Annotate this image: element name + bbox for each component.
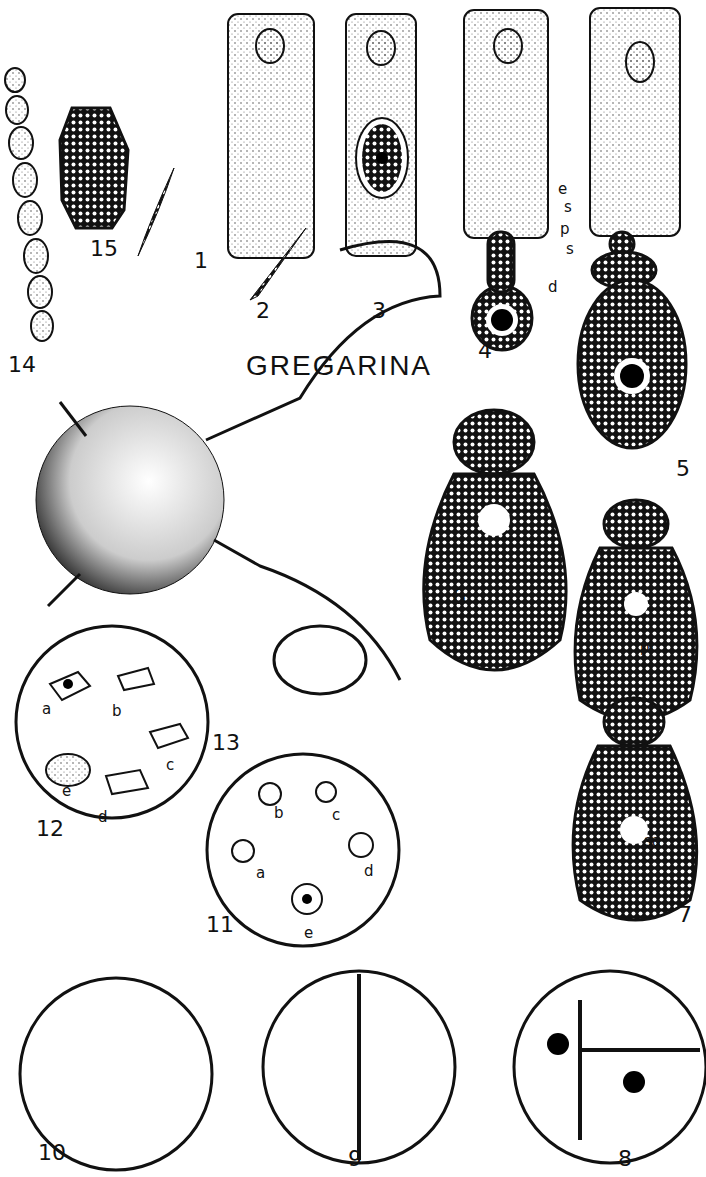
part-label: sa: [644, 832, 661, 850]
part-label: s: [564, 198, 572, 216]
fig11-label: b: [274, 804, 284, 822]
fig12-label: a: [42, 700, 51, 718]
figure-number: 1: [194, 248, 208, 273]
gregarina-plate: [0, 0, 706, 1177]
part-label: e: [558, 180, 567, 198]
figure-number: 8: [618, 1146, 632, 1171]
fig11-label: d: [364, 862, 374, 880]
fig-14-chain: [5, 68, 53, 341]
figure-number: 2: [256, 298, 270, 323]
figure-number: 12: [36, 816, 64, 841]
fig-13-cyst: [36, 406, 224, 594]
figure-number: 7: [678, 902, 692, 927]
fig11-label: e: [304, 924, 313, 942]
part-label: s: [566, 240, 574, 258]
fig12-label: e: [62, 782, 71, 800]
part-label: d: [548, 278, 558, 296]
figure-number: 4: [478, 338, 492, 363]
fig11-label: c: [332, 806, 340, 824]
fig12-label: c: [166, 756, 174, 774]
fig-1-sporozoite: [138, 168, 174, 256]
figure-number: 10: [38, 1140, 66, 1165]
figure-number: 9: [348, 1146, 362, 1171]
figure-number: 3: [372, 298, 386, 323]
plate-title: GREGARINA: [246, 350, 432, 382]
figure-number: 11: [206, 912, 234, 937]
figure-number: 5: [676, 456, 690, 481]
fig12-label: d: [98, 808, 108, 826]
figure-number: 6: [452, 584, 466, 609]
figure-number: 14: [8, 352, 36, 377]
fig11-label: a: [256, 864, 265, 882]
part-label: pr: [640, 638, 656, 656]
figure-number: 13: [212, 730, 240, 755]
fig12-label: b: [112, 702, 122, 720]
figure-number: 15: [90, 236, 118, 261]
part-label: p: [560, 220, 570, 238]
fig-15-cyst: [60, 108, 128, 228]
